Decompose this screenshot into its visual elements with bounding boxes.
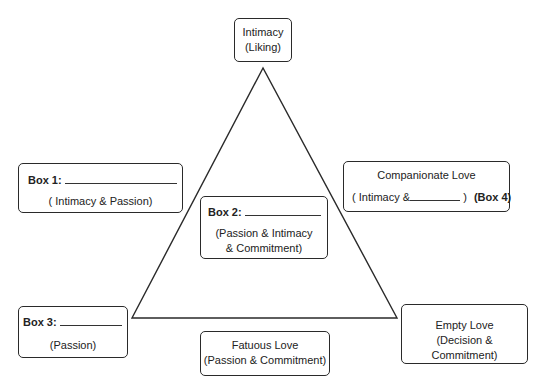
box-3-label: Box 3: [23, 316, 57, 328]
box-2-line2: & Commitment) [201, 241, 327, 256]
box-2-blank[interactable] [245, 205, 321, 216]
empty-subtitle: (Decision & Commitment) [402, 333, 527, 363]
box-2-line1: (Passion & Intimacy [201, 226, 327, 241]
fatuous-love-box: Fatuous Love (Passion & Commitment) [200, 331, 330, 376]
box-4-tag: (Box 4) [474, 191, 511, 203]
companionate-blank[interactable] [410, 190, 460, 201]
fatuous-subtitle: (Passion & Commitment) [201, 353, 329, 368]
companionate-love-box: Companionate Love ( Intimacy & ) (Box 4) [343, 161, 510, 212]
box-1: Box 1: ( Intimacy & Passion) [18, 163, 183, 213]
empty-title: Empty Love [402, 318, 527, 333]
companionate-suffix: ) [463, 191, 467, 203]
companionate-title: Companionate Love [344, 168, 509, 183]
box-1-blank[interactable] [65, 173, 177, 184]
box-3-blank[interactable] [60, 315, 122, 326]
apex-title: Intimacy [235, 25, 291, 40]
apex-box-intimacy: Intimacy (Liking) [234, 18, 292, 62]
empty-love-box: Empty Love (Decision & Commitment) [401, 304, 528, 364]
box-2: Box 2: (Passion & Intimacy & Commitment) [200, 196, 328, 259]
box-1-subtitle: ( Intimacy & Passion) [19, 194, 182, 209]
box-2-label: Box 2: [208, 206, 242, 218]
companionate-prefix: ( Intimacy & [352, 191, 410, 203]
apex-subtitle: (Liking) [235, 40, 291, 55]
box-3: Box 3: (Passion) [18, 306, 128, 358]
box-1-label: Box 1: [28, 174, 62, 186]
box-3-subtitle: (Passion) [19, 338, 127, 353]
fatuous-title: Fatuous Love [201, 338, 329, 353]
